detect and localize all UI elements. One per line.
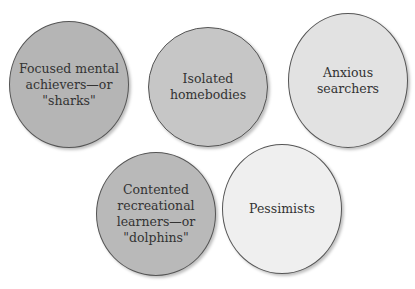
bubble-label: Anxious searchers (289, 65, 407, 97)
bubble-pessimists: Pessimists (222, 144, 342, 274)
bubble-label: Focused mental achievers—or "sharks" (13, 61, 125, 109)
bubble-contented-recreational-learners: Contented recreational learners—or "dolp… (96, 152, 216, 276)
bubble-isolated-homebodies: Isolated homebodies (148, 27, 268, 147)
bubble-label: Isolated homebodies (164, 71, 252, 103)
bubble-focused-mental-achievers: Focused mental achievers—or "sharks" (9, 21, 129, 148)
bubble-label: Contented recreational learners—or "dolp… (111, 182, 202, 246)
bubble-anxious-searchers: Anxious searchers (288, 13, 408, 148)
bubble-label: Pessimists (243, 201, 321, 217)
